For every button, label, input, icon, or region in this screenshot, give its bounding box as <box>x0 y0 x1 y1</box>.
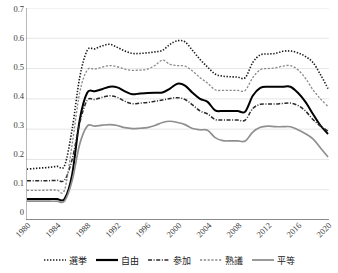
x-axis-tick-label: 2008 <box>225 221 243 239</box>
x-axis-tick-label: 1984 <box>44 221 62 239</box>
legend-label: 参加 <box>173 254 191 267</box>
y-axis-tick-label: 0.4 <box>2 92 24 101</box>
x-axis-tick-label: 1996 <box>134 221 152 239</box>
legend-item-sanka: 参加 <box>148 254 191 267</box>
x-axis-ticks <box>26 8 328 220</box>
series-layer <box>27 40 328 202</box>
x-axis-tick-label: 2000 <box>164 221 182 239</box>
y-axis-tick-label: 0.6 <box>2 34 24 43</box>
series-line <box>27 40 328 169</box>
legend-label: 選挙 <box>69 254 87 267</box>
legend-item-jiyu: 自由 <box>96 254 139 267</box>
gridlines <box>26 8 329 190</box>
x-axis-tick-label: 1992 <box>104 221 122 239</box>
legend-item-jukugi: 熟議 <box>200 254 243 267</box>
y-axis-tick-label: 0 <box>2 208 24 217</box>
y-axis-tick-label: 0.1 <box>2 179 24 188</box>
x-axis-labels: 1980198419881992199620002004200820122016… <box>26 221 329 249</box>
x-axis-tick-label: 1980 <box>14 221 32 239</box>
plot-svg <box>26 8 329 220</box>
legend-label: 熟議 <box>225 254 243 267</box>
x-axis-tick-label: 1988 <box>74 221 92 239</box>
legend-label: 平等 <box>277 254 295 267</box>
legend-label: 自由 <box>121 254 139 267</box>
solid-swatch <box>96 256 118 264</box>
solid-gray-swatch <box>252 256 274 264</box>
y-axis-tick-label: 0.2 <box>2 150 24 159</box>
axis-lines <box>26 8 329 220</box>
x-axis-tick-label: 2012 <box>255 221 273 239</box>
y-axis-tick-label: 0.3 <box>2 121 24 130</box>
plot-area <box>26 8 329 220</box>
x-axis-tick-label: 2020 <box>315 221 333 239</box>
dotted-swatch <box>44 256 66 264</box>
fine-dotted-swatch <box>200 256 222 264</box>
y-axis-tick-label: 0.5 <box>2 63 24 72</box>
legend-item-sensyo: 選挙 <box>44 254 87 267</box>
line-chart: 0.7 0.6 0.5 0.4 0.3 0.2 0.1 0 1980198419… <box>0 0 338 273</box>
y-axis-tick-label: 0.7 <box>2 5 24 14</box>
x-axis-tick-label: 2016 <box>285 221 303 239</box>
x-axis-tick-label: 2004 <box>195 221 213 239</box>
dashdot-swatch <box>148 256 170 264</box>
legend-item-byodo: 平等 <box>252 254 295 267</box>
chart-legend: 選挙 自由 参加 熟議 平等 <box>0 251 338 269</box>
